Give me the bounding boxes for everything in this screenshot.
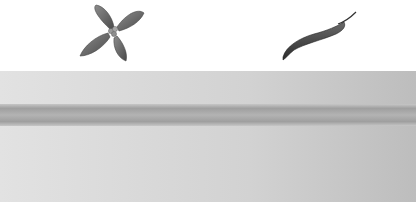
mint-leaf-icon: [80, 5, 144, 61]
trp-channel-diagram: [0, 0, 416, 221]
diagram-panel-background: [0, 71, 416, 202]
chili-pepper-icon: [283, 12, 356, 60]
cell-membrane: [0, 104, 416, 126]
